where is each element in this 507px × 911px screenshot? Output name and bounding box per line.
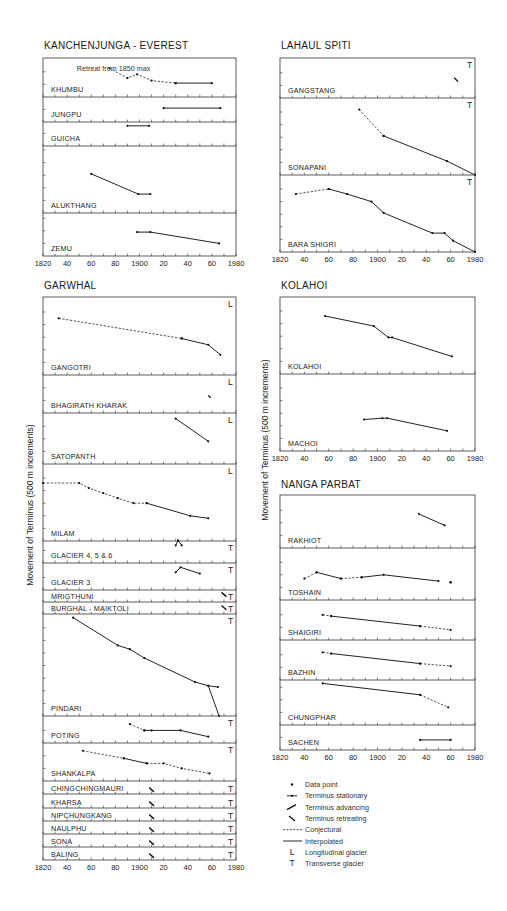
glacier-panel: PINDARIT: [43, 614, 236, 717]
glacier-type-T: T: [228, 592, 233, 602]
x-tick-label: 20: [398, 255, 406, 264]
glacier-name: SONA: [51, 837, 72, 846]
glacier-panel: BAZHIN: [280, 640, 475, 680]
glacier-panel: POTINGT: [43, 716, 236, 743]
x-tick-label: 80: [349, 753, 357, 762]
glacier-name: GANGSTANG: [288, 86, 335, 95]
x-tick-label: 1900: [131, 259, 148, 268]
x-tick-label: 1900: [369, 454, 386, 463]
legend-label: Conjectural: [305, 825, 342, 834]
glacier-type-L: L: [228, 299, 233, 309]
region-kolahoi: KOLAHOIKOLAHOIMACHOI18204060801900204060…: [272, 280, 484, 463]
glacier-type-T: T: [228, 745, 233, 755]
retreating-icon: [149, 802, 154, 806]
glacier-name: MRIGTHUNI: [51, 592, 94, 601]
x-tick-label: 1980: [467, 753, 484, 762]
glacier-type-T: T: [228, 784, 233, 794]
legend-label: Data point: [305, 780, 338, 789]
glacier-name: CHUNGPHAR: [288, 713, 336, 722]
region-title: KANCHENJUNGA - EVEREST: [44, 40, 188, 51]
glacier-panel: MACHOI: [280, 374, 475, 451]
x-tick-label: 20: [398, 454, 406, 463]
region-title: KOLAHOI: [281, 280, 328, 291]
glacier-name: SACHEN: [288, 738, 319, 747]
x-tick-label: 60: [446, 454, 454, 463]
region-title: NANGA PARBAT: [281, 479, 361, 490]
glacier-name: RAKHIOT: [288, 536, 322, 545]
x-tick-label: 60: [325, 753, 333, 762]
retreating-icon: [222, 592, 227, 596]
glacier-panel: GUICHA: [43, 122, 236, 146]
region-nanga-parbat: NANGA PARBATRAKHIOTTOSHAINSHAIGIRIBAZHIN…: [272, 479, 484, 762]
glacier-type-T: T: [228, 837, 233, 847]
glacier-name: BHAGIRATH KHARAK: [51, 401, 127, 410]
legend-item: LLongitudinal glacier: [290, 847, 368, 857]
legend-label: Transverse glacier: [305, 859, 364, 868]
glacier-type-L: L: [228, 377, 233, 387]
glacier-type-T: T: [228, 850, 233, 860]
x-tick-label: 40: [63, 863, 71, 872]
x-tick-label: 40: [300, 753, 308, 762]
glacier-panel: GANGSTANGT: [280, 60, 475, 98]
glacier-terminus-figure: KANCHENJUNGA - EVERESTKHUMBUJUNGPUGUICHA…: [0, 0, 507, 911]
x-tick-label: 60: [446, 255, 454, 264]
legend-label: Terminus stationary: [305, 791, 368, 800]
glacier-name: TOSHAIN: [288, 588, 321, 597]
x-tick-label: 40: [422, 255, 430, 264]
glacier-panel: SHANKALPAT: [43, 743, 236, 781]
glacier-panel: MRIGTHUNIT: [43, 590, 236, 602]
legend-item: Terminus retreating: [289, 814, 367, 823]
glacier-panel: SONAT: [43, 834, 236, 847]
x-tick-label: 80: [111, 259, 119, 268]
x-tick-label: 1900: [369, 255, 386, 264]
glacier-panel: MILAML: [42, 464, 236, 541]
x-tick-label: 20: [398, 753, 406, 762]
glacier-type-T: T: [228, 798, 233, 808]
retreating-icon: [222, 605, 227, 609]
legend-item: TTransverse glacier: [289, 858, 364, 868]
x-tick-label: 1980: [467, 255, 484, 264]
glacier-panel: GLACIER 4, 5 & 6T: [43, 539, 236, 563]
glacier-panel: ZEMU: [43, 213, 236, 256]
glacier-panel: SACHEN: [280, 725, 475, 750]
legend-item: Data point: [291, 780, 338, 789]
glacier-panel: KHARSAT: [43, 794, 236, 808]
x-tick-label: 40: [422, 753, 430, 762]
glacier-panel: TOSHAIN: [280, 548, 475, 600]
glacier-panel: RAKHIOT: [280, 510, 475, 548]
glacier-name: NAULPHU: [51, 824, 87, 833]
glacier-panel: GANGOTRIL: [43, 299, 236, 375]
x-tick-label: 40: [300, 454, 308, 463]
x-tick-label: 1820: [272, 454, 289, 463]
legend-item: Interpolated: [283, 837, 343, 846]
glacier-name: MACHOI: [288, 439, 318, 448]
glacier-name: MILAM: [51, 529, 75, 538]
svg-text:L: L: [290, 847, 295, 857]
glacier-panel: KOLAHOI: [280, 311, 475, 374]
x-tick-label: 40: [422, 454, 430, 463]
glacier-name: KHARSA: [51, 798, 82, 807]
glacier-name: NIPCHUNGKANG: [51, 811, 112, 820]
annotation: Retreat from 1850 max: [77, 64, 151, 73]
retreating-icon: [149, 828, 154, 832]
glacier-type-T: T: [228, 824, 233, 834]
glacier-panel: BARA SHIGRIT: [280, 175, 476, 253]
x-tick-label: 60: [208, 259, 216, 268]
x-tick-label: 20: [159, 863, 167, 872]
glacier-name: ALUKTHANG: [51, 201, 97, 210]
x-tick-label: 1820: [272, 255, 289, 264]
y-axis-label: Movement of Terminus (500 m increments): [260, 359, 270, 521]
legend-item: Terminus advancing: [287, 803, 369, 812]
glacier-name: SHAIGIRI: [288, 628, 321, 637]
x-tick-label: 60: [208, 863, 216, 872]
glacier-name: GANGOTRI: [51, 363, 91, 372]
glacier-type-T: T: [228, 811, 233, 821]
glacier-panel: GLACIER 3T: [43, 563, 236, 590]
glacier-name: BAZHIN: [288, 668, 316, 677]
y-axis-label: Movement of Terminus (500 m increments): [25, 424, 35, 586]
retreating-icon: [149, 788, 154, 792]
glacier-type-T: T: [228, 604, 233, 614]
region-kanchenjunga-everest: KANCHENJUNGA - EVERESTKHUMBUJUNGPUGUICHA…: [35, 40, 245, 268]
x-tick-label: 40: [184, 259, 192, 268]
glacier-name: GLACIER 3: [51, 578, 90, 587]
